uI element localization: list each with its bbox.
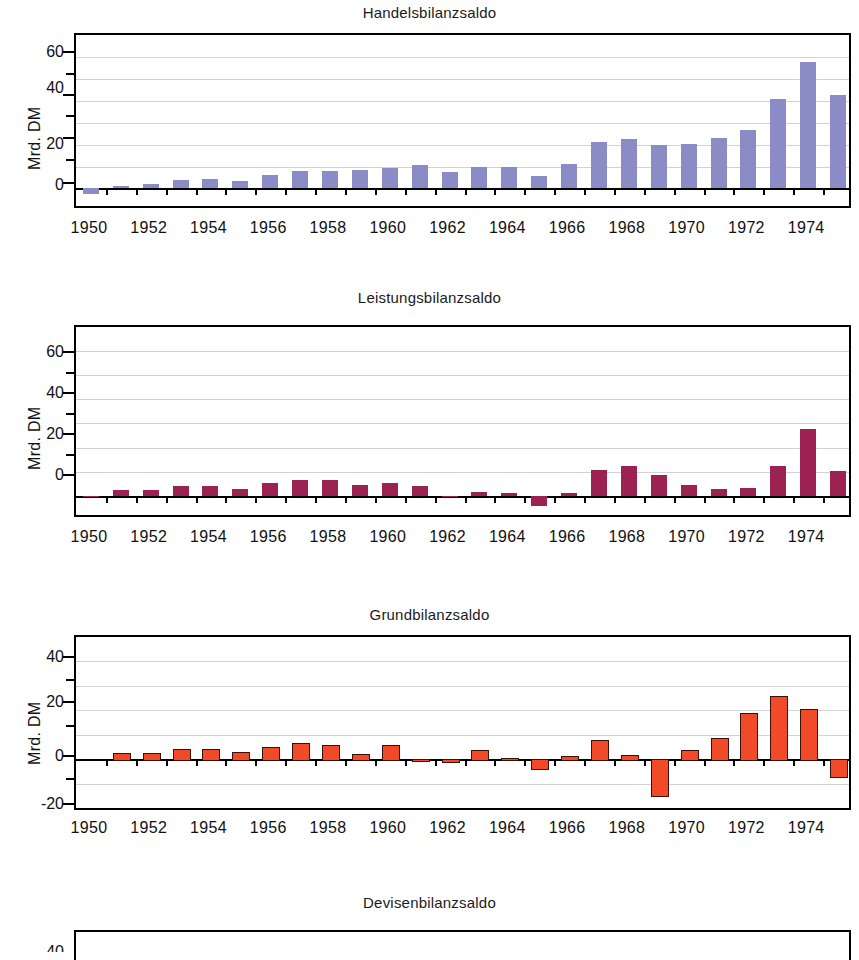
bar (83, 496, 99, 497)
bar (143, 184, 159, 189)
bar (681, 750, 699, 761)
gridline (76, 351, 849, 352)
bar (292, 743, 310, 761)
x-tick (674, 759, 676, 766)
bar (412, 759, 430, 762)
gridline (76, 123, 849, 124)
bar (531, 176, 547, 189)
x-tick (196, 759, 198, 766)
x-tick-label: 1968 (601, 818, 653, 838)
gridline (76, 686, 849, 687)
x-tick (823, 188, 825, 195)
bar (651, 145, 667, 188)
x-tick (315, 496, 317, 503)
chart-panel-grundbilanzsaldo: Grundbilanzsaldo Mrd. DM 40 20 0 -20 195… (0, 600, 859, 850)
gridline (76, 710, 849, 711)
x-axis-labels: 1950195219541956195819601962196419661968… (0, 527, 859, 549)
x-axis-labels: 1950195219541956195819601962196419661968… (0, 818, 859, 840)
bar (770, 696, 788, 762)
gridline (76, 784, 849, 785)
plot-area (74, 930, 851, 960)
chart-panel-handelsbilanzsaldo: Handelsbilanzsaldo Mrd. DM 60 40 20 0 19… (0, 0, 859, 258)
x-tick-label: 1960 (362, 818, 414, 838)
x-tick-label: 1956 (242, 218, 294, 238)
bar (83, 188, 99, 193)
y-tick-minor (66, 372, 74, 374)
x-tick (793, 759, 795, 766)
x-tick-label: 1950 (63, 818, 115, 838)
bar (322, 480, 338, 495)
bar (173, 486, 189, 496)
gridline (76, 399, 849, 400)
bar (113, 490, 129, 496)
x-tick-label: 1962 (422, 818, 474, 838)
plot-area (74, 635, 851, 810)
x-tick-label: 1958 (302, 818, 354, 838)
bar (800, 62, 816, 188)
bar (591, 740, 609, 761)
y-tick-minor (66, 778, 74, 780)
x-tick (584, 188, 586, 195)
y-tick-major (63, 351, 74, 353)
x-tick (733, 188, 735, 195)
x-tick (166, 496, 168, 503)
bar (591, 142, 607, 188)
y-tick-minor (66, 413, 74, 415)
x-tick (285, 496, 287, 503)
y-tick-major (63, 755, 74, 757)
x-tick (285, 188, 287, 195)
bar (232, 752, 250, 761)
bar (322, 745, 340, 761)
y-tick-label: -20 (8, 796, 64, 812)
bar (591, 470, 607, 496)
x-tick (136, 759, 138, 766)
x-tick (106, 496, 108, 503)
y-tick-major (63, 803, 74, 805)
bar (651, 759, 669, 797)
bar (442, 496, 458, 498)
x-tick (823, 496, 825, 503)
bar (621, 139, 637, 188)
chart-title: Handelsbilanzsaldo (0, 4, 859, 22)
x-tick (704, 496, 706, 503)
gridline (76, 472, 849, 473)
x-tick (524, 759, 526, 766)
bar (352, 170, 368, 189)
bar (711, 489, 727, 496)
bar (382, 168, 398, 189)
bar (202, 179, 218, 188)
x-tick (405, 759, 407, 766)
y-tick-label: 0 (18, 748, 64, 764)
x-tick (166, 759, 168, 766)
x-tick-label: 1964 (481, 527, 533, 547)
gridline (76, 735, 849, 736)
gridline (76, 167, 849, 168)
y-tick-label: 60 (24, 344, 64, 360)
bar (232, 489, 248, 495)
bar (711, 738, 729, 761)
x-tick (255, 496, 257, 503)
x-tick (614, 496, 616, 503)
x-tick-label: 1970 (661, 218, 713, 238)
x-tick-label: 1970 (661, 818, 713, 838)
x-tick (644, 496, 646, 503)
x-tick-label: 1974 (780, 818, 832, 838)
x-tick (704, 759, 706, 766)
x-tick (554, 496, 556, 503)
y-tick-major (63, 51, 74, 53)
y-tick-minor (66, 454, 74, 456)
x-tick-label: 1950 (63, 218, 115, 238)
gridline (76, 375, 849, 376)
bar (501, 493, 517, 496)
x-tick-label: 1952 (123, 218, 175, 238)
x-tick-label: 1962 (422, 218, 474, 238)
x-tick-label: 1974 (780, 218, 832, 238)
bar (173, 180, 189, 188)
bar (143, 490, 159, 496)
bar (292, 171, 308, 189)
chart-panel-devisenbilanzsaldo: Devisenbilanzsaldo 40 (0, 880, 859, 952)
bar (770, 99, 786, 188)
gridline (76, 423, 849, 424)
y-tick-label: 0 (24, 467, 64, 483)
x-tick (255, 759, 257, 766)
